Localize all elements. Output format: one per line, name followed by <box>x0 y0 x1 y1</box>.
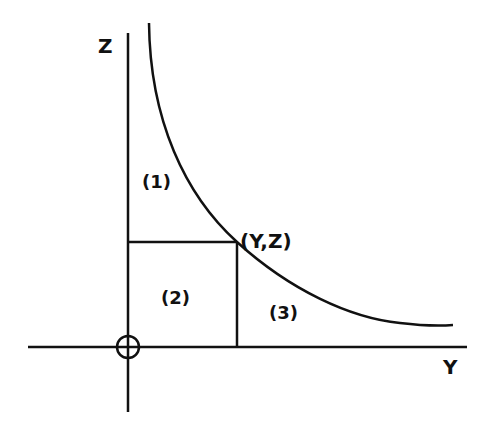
region-2-label: (2) <box>161 287 190 308</box>
z-axis-label: Z <box>98 34 113 58</box>
hyperbola-curve <box>149 23 453 326</box>
region-3-label: (3) <box>269 302 298 323</box>
point-label: (Y,Z) <box>240 229 292 253</box>
y-axis-label: Y <box>442 355 458 379</box>
region-1-label: (1) <box>142 171 171 192</box>
hyperbola-diagram: Z Y (Y,Z) (1) (2) (3) <box>0 0 488 426</box>
